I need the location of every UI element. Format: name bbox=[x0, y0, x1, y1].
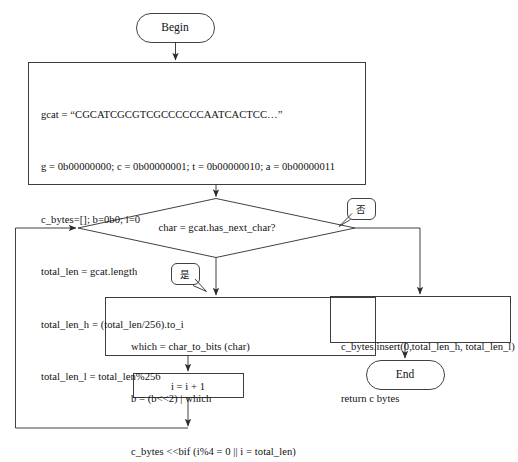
decision-label: char = gcat.has_next_char? bbox=[117, 220, 317, 236]
edge-label-no: 否 bbox=[347, 202, 375, 216]
edge-label-yes: 是 bbox=[171, 267, 199, 281]
edge-decision-no-to-finalize bbox=[355, 228, 420, 294]
begin-terminator-label: Begin bbox=[136, 21, 214, 33]
init-line-1: gcat = “CGCATCGCGTCGCCCCCCAATCACTCC…” bbox=[41, 107, 361, 123]
increment-process-label: i = i + 1 bbox=[133, 379, 243, 395]
loop-body-line-1: which = char_to_bits (char) bbox=[131, 339, 381, 355]
init-line-4: total_len = gcat.length bbox=[41, 264, 361, 280]
init-line-2: g = 0b00000000; c = 0b00000001; t = 0b00… bbox=[41, 159, 361, 175]
loop-body-line-3: c_bytes <<bif (i%4 = 0 || i = total_len) bbox=[131, 444, 381, 460]
